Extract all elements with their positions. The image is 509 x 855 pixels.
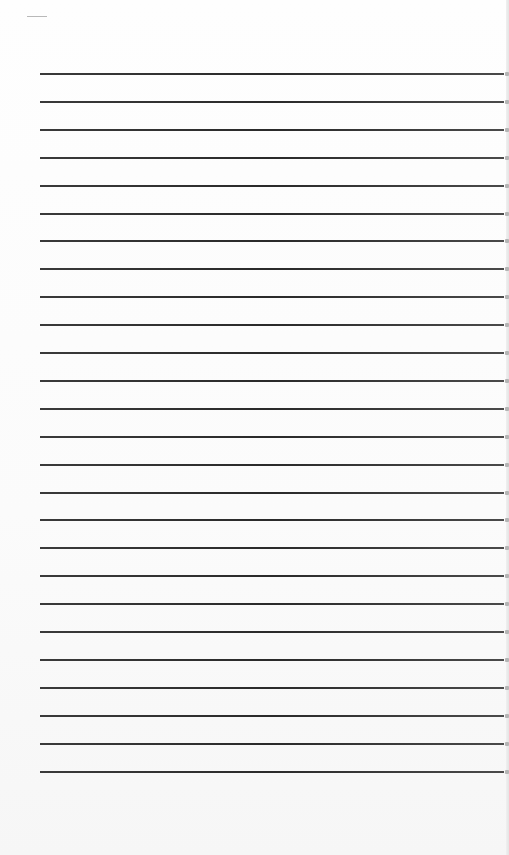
edge-tick	[505, 184, 509, 188]
ruled-line	[40, 213, 504, 215]
ruled-line	[40, 464, 504, 466]
ruled-line	[40, 603, 504, 605]
ruled-line	[40, 324, 504, 326]
edge-tick	[505, 630, 509, 634]
ruled-line	[40, 185, 504, 187]
edge-tick	[505, 407, 509, 411]
edge-tick	[505, 491, 509, 495]
ruled-line	[40, 101, 504, 103]
edge-tick	[505, 658, 509, 662]
ruled-line	[40, 687, 504, 689]
edge-tick	[505, 239, 509, 243]
edge-tick	[505, 379, 509, 383]
ruled-line	[40, 547, 504, 549]
ruled-line	[40, 659, 504, 661]
ruled-line	[40, 157, 504, 159]
edge-tick	[505, 156, 509, 160]
ruled-line	[40, 129, 504, 131]
edge-tick	[505, 435, 509, 439]
edge-tick	[505, 770, 509, 774]
edge-tick	[505, 100, 509, 104]
lined-paper-page	[0, 0, 509, 855]
ruled-line	[40, 519, 504, 521]
edge-tick	[505, 72, 509, 76]
edge-tick	[505, 742, 509, 746]
edge-tick	[505, 714, 509, 718]
ruled-line	[40, 631, 504, 633]
ruled-line	[40, 743, 504, 745]
edge-tick	[505, 546, 509, 550]
edge-tick	[505, 267, 509, 271]
ruled-line	[40, 240, 504, 242]
edge-tick	[505, 323, 509, 327]
ruled-line	[40, 492, 504, 494]
edge-tick	[505, 518, 509, 522]
ruled-line	[40, 771, 504, 773]
edge-tick	[505, 574, 509, 578]
edge-tick	[505, 295, 509, 299]
ruled-line	[40, 380, 504, 382]
edge-tick	[505, 128, 509, 132]
edge-tick	[505, 602, 509, 606]
edge-tick	[505, 686, 509, 690]
ruled-line	[40, 73, 504, 75]
ruled-line	[40, 715, 504, 717]
ruled-line	[40, 268, 504, 270]
ruled-line	[40, 352, 504, 354]
ruled-line	[40, 296, 504, 298]
corner-mark	[27, 16, 47, 17]
edge-tick	[505, 351, 509, 355]
ruled-line	[40, 408, 504, 410]
edge-tick	[505, 463, 509, 467]
ruled-line	[40, 575, 504, 577]
edge-tick	[505, 212, 509, 216]
ruled-line	[40, 436, 504, 438]
